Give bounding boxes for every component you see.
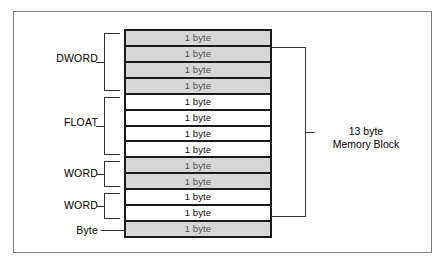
label-float: FLOAT — [36, 116, 98, 128]
byte-cell: 1 byte — [126, 206, 270, 222]
byte-cell-label: 1 byte — [185, 145, 211, 155]
bracket-stub-word-1 — [96, 174, 105, 175]
byte-cell: 1 byte — [126, 31, 270, 47]
byte-cell-label: 1 byte — [185, 129, 211, 139]
byte-cell: 1 byte — [126, 79, 270, 95]
byte-cell-label: 1 byte — [185, 224, 211, 234]
label-word-2: WORD — [36, 199, 98, 211]
byte-cell: 1 byte — [126, 174, 270, 190]
bracket-dword — [104, 33, 120, 91]
label-word-1: WORD — [36, 167, 98, 179]
label-memory-block-line2: Memory Block — [316, 138, 416, 151]
bracket-word-1 — [104, 161, 120, 187]
byte-cell-label: 1 byte — [185, 33, 211, 43]
memory-layout-figure: DWORD FLOAT WORD WORD Byte 1 byte 1 byte… — [0, 0, 444, 266]
byte-cell: 1 byte — [126, 142, 270, 158]
byte-cell: 1 byte — [126, 95, 270, 111]
byte-cell: 1 byte — [126, 63, 270, 79]
bracket-stub-word-2 — [96, 206, 105, 207]
byte-cell-label: 1 byte — [185, 97, 211, 107]
byte-cell: 1 byte — [126, 222, 270, 236]
byte-cell-label: 1 byte — [185, 81, 211, 91]
byte-cell-label: 1 byte — [185, 113, 211, 123]
byte-cell: 1 byte — [126, 158, 270, 174]
right-bracket-arm-top — [272, 47, 286, 48]
label-memory-block-line1: 13 byte — [316, 125, 416, 138]
bracket-word-2 — [104, 193, 120, 219]
bracket-float — [104, 97, 120, 155]
leader-line-byte — [101, 230, 124, 231]
label-byte: Byte — [36, 224, 98, 236]
bracket-stub-float — [96, 126, 105, 127]
label-memory-block: 13 byte Memory Block — [316, 125, 416, 151]
byte-cell-label: 1 byte — [185, 177, 211, 187]
byte-cell-label: 1 byte — [185, 65, 211, 75]
byte-cell: 1 byte — [126, 127, 270, 143]
bracket-stub-memory-block — [305, 132, 315, 133]
byte-cell: 1 byte — [126, 47, 270, 63]
byte-cell: 1 byte — [126, 111, 270, 127]
byte-cell-label: 1 byte — [185, 161, 211, 171]
byte-cell: 1 byte — [126, 190, 270, 206]
memory-block: 1 byte 1 byte 1 byte 1 byte 1 byte 1 byt… — [124, 29, 272, 238]
byte-cell-label: 1 byte — [185, 208, 211, 218]
byte-cell-label: 1 byte — [185, 192, 211, 202]
byte-cell-label: 1 byte — [185, 49, 211, 59]
label-dword: DWORD — [36, 52, 98, 64]
bracket-memory-block — [286, 47, 306, 217]
right-bracket-arm-bottom — [272, 216, 286, 217]
bracket-stub-dword — [96, 62, 105, 63]
